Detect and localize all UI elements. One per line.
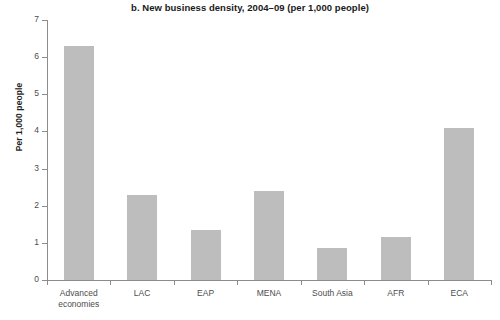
bar [64,46,94,280]
bar-slot [174,20,237,280]
x-tick-mark [301,280,302,285]
x-category-label: ECA [428,288,491,299]
x-category-label: EAP [174,288,237,299]
x-tick-mark [110,280,111,285]
x-tick-mark [174,280,175,285]
x-category-label: LAC [110,288,173,299]
y-tick-label: 1 [19,238,39,247]
bar-slot [47,20,110,280]
y-tick-label: 4 [19,126,39,135]
bar-slot [428,20,491,280]
bar-slot [237,20,300,280]
x-category-label-line: economies [47,299,110,310]
x-category-label-line: Advanced [47,288,110,299]
y-tick-label: 0 [19,275,39,284]
x-category-label: South Asia [301,288,364,299]
x-category-label: AFR [364,288,427,299]
x-tick-mark [364,280,365,285]
x-category-label-line: LAC [110,288,173,299]
x-category-label: Advancedeconomies [47,288,110,310]
x-tick-mark [47,280,48,285]
x-tick-mark [491,280,492,285]
x-tick-mark [428,280,429,285]
bar-slot [110,20,173,280]
y-tick-label: 6 [19,52,39,61]
x-category-label-line: EAP [174,288,237,299]
x-axis-line [47,280,491,281]
bar [444,128,474,280]
bar [191,230,221,280]
y-tick-label: 3 [19,164,39,173]
x-category-label-line: South Asia [301,288,364,299]
bar [317,248,347,280]
x-category-label-line: MENA [237,288,300,299]
bar [254,191,284,280]
y-axis-title: Per 1,000 people [14,57,24,177]
bar-slot [301,20,364,280]
bar-slot [364,20,427,280]
chart-figure: b. New business density, 2004–09 (per 1,… [0,0,500,320]
bar [381,237,411,280]
x-category-label-line: AFR [364,288,427,299]
chart-title: b. New business density, 2004–09 (per 1,… [0,2,500,13]
y-tick-label: 5 [19,89,39,98]
y-tick-label: 2 [19,201,39,210]
y-tick-label: 7 [19,15,39,24]
bar [127,195,157,280]
plot-area: 01234567 [47,20,491,280]
x-category-label-line: ECA [428,288,491,299]
x-category-label: MENA [237,288,300,299]
x-tick-mark [237,280,238,285]
